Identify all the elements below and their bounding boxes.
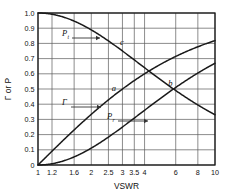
y-tick-label-9: 0.9 <box>25 24 35 33</box>
x-tick-label-2: 1.6 <box>69 168 79 177</box>
x-tick-label-1: 1.2 <box>47 168 57 177</box>
y-tick-label-6: 0.6 <box>25 69 35 78</box>
x-tick-label-9: 8 <box>196 168 200 177</box>
x-tick-label-0: 1 <box>36 168 40 177</box>
y-tick-label-5: 0.5 <box>25 85 35 94</box>
y-tick-label-8: 0.8 <box>25 39 35 48</box>
curve-label-a: a <box>112 83 116 93</box>
y-tick-label-0: 0 <box>31 161 35 170</box>
x-tick-label-7: 4 <box>143 168 147 177</box>
y-tick-label-4: 0.4 <box>25 100 35 109</box>
y-tick-label-7: 0.7 <box>25 54 35 63</box>
x-tick-label-6: 3.5 <box>129 168 139 177</box>
y-tick-label-3: 0.3 <box>25 115 35 124</box>
chart-svg: 11.21.622.533.546810 00.10.20.30.40.50.6… <box>0 0 229 193</box>
annotation-label-pt: P <box>61 28 67 38</box>
x-tick-label-3: 2 <box>89 168 93 177</box>
x-tick-label-4: 2.5 <box>103 168 113 177</box>
curve-label-c: c <box>120 37 124 47</box>
y-tick-label-2: 0.2 <box>25 130 35 139</box>
y-tick-label-10: 1.0 <box>25 9 35 18</box>
x-tick-label-10: 10 <box>211 168 219 177</box>
annotation-label-pr: P <box>106 111 112 121</box>
x-tick-label-8: 6 <box>174 168 178 177</box>
y-tick-label-1: 0.1 <box>25 145 35 154</box>
chart-figure: 11.21.622.533.546810 00.10.20.30.40.50.6… <box>0 0 229 193</box>
y-axis-title: Γ or P <box>3 77 13 100</box>
curve-label-b: b <box>168 78 172 88</box>
y-axis-tick-labels: 00.10.20.30.40.50.60.70.80.91.0 <box>25 9 35 170</box>
x-tick-label-5: 3 <box>120 168 124 177</box>
x-axis-title: VSWR <box>114 181 139 191</box>
